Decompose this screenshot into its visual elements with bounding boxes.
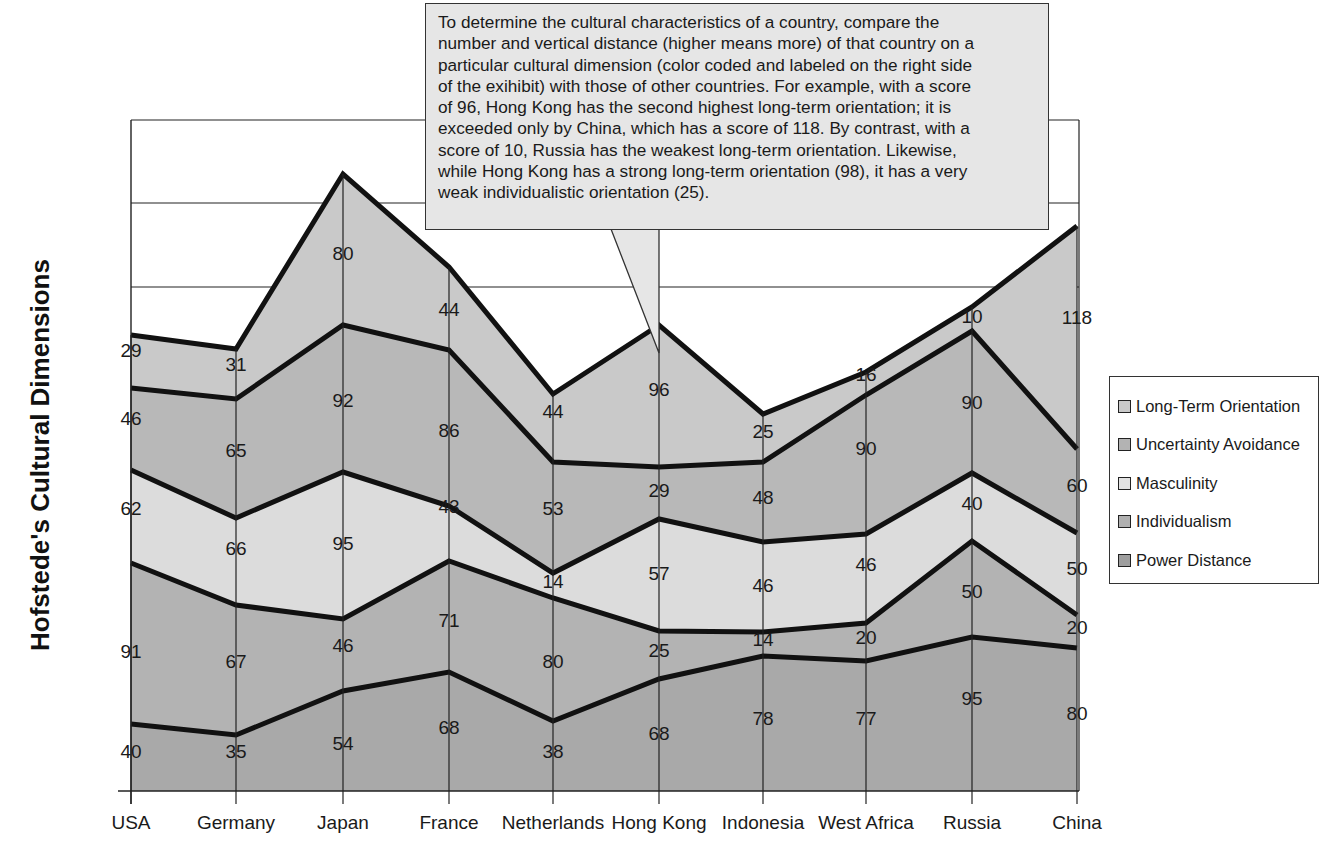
data-value-label: 25 <box>752 421 773 442</box>
data-value-label: 20 <box>855 627 876 648</box>
data-value-label: 65 <box>225 440 246 461</box>
data-value-label: 92 <box>332 390 353 411</box>
x-tick-label: Hong Kong <box>611 812 706 834</box>
legend-swatch-icon <box>1118 438 1131 451</box>
x-tick-label: France <box>419 812 478 834</box>
data-value-label: 80 <box>1066 703 1087 724</box>
data-value-label: 38 <box>542 741 563 762</box>
legend-item-individualism: Individualism <box>1118 503 1318 542</box>
legend-item-masculinity: Masculinity <box>1118 464 1318 503</box>
data-value-label: 95 <box>961 688 982 709</box>
x-tick-label: Indonesia <box>722 812 804 834</box>
data-value-label: 80 <box>332 243 353 264</box>
legend-swatch-icon <box>1118 515 1131 528</box>
data-value-label: 29 <box>120 340 141 361</box>
callout-annotation: To determine the cultural characteristic… <box>425 3 1049 230</box>
x-tick-label: China <box>1052 812 1102 834</box>
data-value-label: 77 <box>855 708 876 729</box>
data-value-label: 68 <box>438 717 459 738</box>
data-value-label: 95 <box>332 533 353 554</box>
legend-label: Masculinity <box>1136 474 1218 493</box>
legend-label: Power Distance <box>1136 551 1252 570</box>
data-value-label: 96 <box>648 379 669 400</box>
legend-label: Uncertainty Avoidance <box>1136 435 1300 454</box>
data-value-label: 66 <box>225 538 246 559</box>
data-value-label: 118 <box>1062 307 1092 328</box>
legend-label: Individualism <box>1136 512 1231 531</box>
callout-pointer <box>611 229 659 353</box>
data-value-label: 10 <box>961 306 982 327</box>
data-value-label: 16 <box>855 364 876 385</box>
x-tick-label: Russia <box>943 812 1001 834</box>
callout-line: of 96, Hong Kong has the second highest … <box>438 97 1036 118</box>
legend-swatch-icon <box>1118 477 1131 490</box>
data-value-label: 29 <box>648 480 669 501</box>
callout-line: particular cultural dimension (color cod… <box>438 55 1036 76</box>
data-value-label: 80 <box>542 651 563 672</box>
callout-line: score of 10, Russia has the weakest long… <box>438 140 1036 161</box>
data-value-label: 91 <box>120 641 141 662</box>
data-value-label: 44 <box>438 299 460 320</box>
data-value-label: 50 <box>1066 558 1087 579</box>
data-value-label: 40 <box>961 493 982 514</box>
legend-item-uncertainty-avoidance: Uncertainty Avoidance <box>1118 426 1318 465</box>
data-value-label: 50 <box>961 581 982 602</box>
data-value-label: 90 <box>855 438 876 459</box>
legend-item-power-distance: Power Distance <box>1118 541 1318 580</box>
callout-line: while Hong Kong has a strong long-term o… <box>438 161 1036 182</box>
data-value-label: 46 <box>332 635 353 656</box>
callout-line: To determine the cultural characteristic… <box>438 12 1036 33</box>
data-value-label: 46 <box>120 408 141 429</box>
data-value-label: 54 <box>332 733 354 754</box>
data-value-label: 43 <box>438 496 459 517</box>
x-tick-label: Germany <box>197 812 275 834</box>
data-value-label: 25 <box>648 640 669 661</box>
legend-label: Long-Term Orientation <box>1136 397 1300 416</box>
data-value-label: 68 <box>648 723 669 744</box>
data-value-label: 60 <box>1066 475 1087 496</box>
callout-line: exceeded only by China, which has a scor… <box>438 118 1036 139</box>
data-value-label: 40 <box>120 741 141 762</box>
data-value-label: 90 <box>961 392 982 413</box>
data-value-label: 46 <box>752 575 773 596</box>
data-value-label: 35 <box>225 741 246 762</box>
legend-item-long-term-orientation: Long-Term Orientation <box>1118 387 1318 426</box>
callout-line: of the exihibit) with those of other cou… <box>438 76 1036 97</box>
data-value-label: 53 <box>542 498 563 519</box>
legend-swatch-icon <box>1118 400 1131 413</box>
x-tick-label: Netherlands <box>502 812 604 834</box>
data-value-label: 14 <box>752 629 774 650</box>
data-value-label: 20 <box>1066 617 1087 638</box>
data-value-label: 78 <box>752 708 773 729</box>
chart-legend: Long-Term Orientation Uncertainty Avoida… <box>1109 376 1319 584</box>
x-tick-label: West Africa <box>818 812 914 834</box>
data-value-label: 46 <box>855 554 876 575</box>
data-value-label: 71 <box>438 610 459 631</box>
x-tick-label: USA <box>111 812 150 834</box>
data-value-label: 14 <box>542 571 564 592</box>
data-value-label: 86 <box>438 420 459 441</box>
legend-swatch-icon <box>1118 554 1131 567</box>
data-value-label: 44 <box>542 401 564 422</box>
callout-line: number and vertical distance (higher mea… <box>438 33 1036 54</box>
data-value-label: 62 <box>120 498 141 519</box>
data-value-label: 31 <box>225 354 246 375</box>
y-axis-title: Hofstede's Cultural Dimensions <box>25 259 56 651</box>
data-value-label: 57 <box>648 563 669 584</box>
data-value-label: 48 <box>752 487 773 508</box>
data-value-label: 67 <box>225 651 246 672</box>
callout-line: weak individualistic orientation (25). <box>438 182 1036 203</box>
x-tick-label: Japan <box>317 812 369 834</box>
